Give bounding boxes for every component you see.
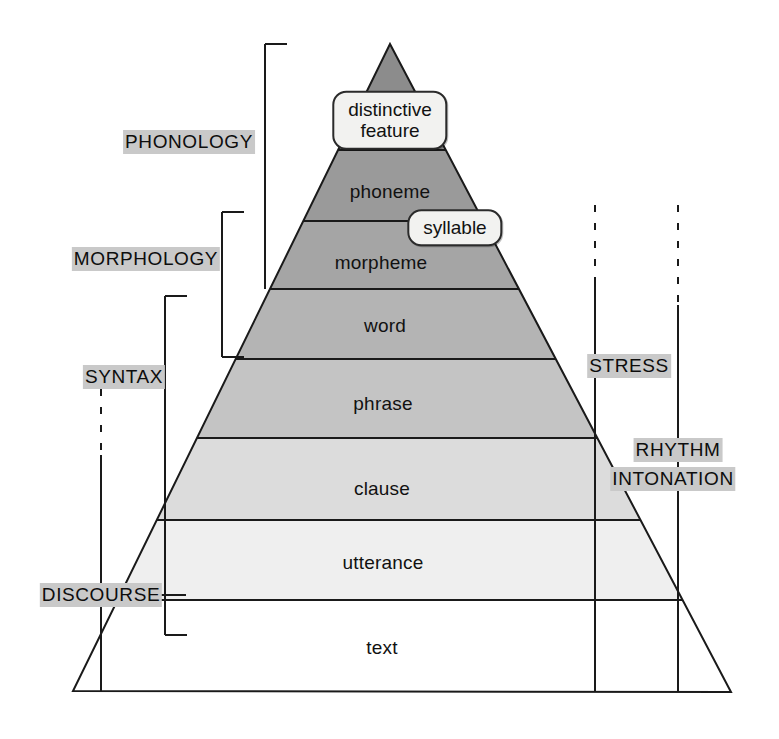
domain-label-discourse: DISCOURSE	[40, 583, 162, 607]
callout-distinctive-feature: distinctivefeature	[332, 91, 447, 150]
domain-label-stress: STRESS	[587, 354, 671, 378]
callout-syllable: syllable	[407, 209, 502, 246]
callout-line-2: feature	[348, 120, 431, 141]
pyramid-level-text	[70, 600, 733, 691]
domain-label-rhythm: RHYTHM	[634, 438, 723, 462]
level-label-word: word	[364, 315, 406, 337]
level-label-text: text	[366, 637, 397, 659]
callout-line-1: syllable	[423, 217, 486, 238]
level-label-utterance: utterance	[342, 552, 423, 574]
level-label-morpheme: morpheme	[335, 252, 427, 274]
domain-label-intonation: INTONATION	[610, 467, 735, 491]
pyramid-diagram-canvas: phonememorphemewordphraseclauseutterance…	[0, 0, 779, 739]
bracket-phonology	[265, 44, 287, 289]
level-label-phoneme: phoneme	[350, 181, 431, 203]
domain-label-phonology: PHONOLOGY	[123, 130, 255, 154]
domain-label-morphology: MORPHOLOGY	[72, 247, 220, 271]
level-label-phrase: phrase	[353, 393, 412, 415]
callout-line-1: distinctive	[348, 99, 431, 120]
bracket-morphology	[222, 212, 244, 357]
domain-label-syntax: SYNTAX	[83, 365, 165, 389]
level-label-clause: clause	[354, 478, 410, 500]
